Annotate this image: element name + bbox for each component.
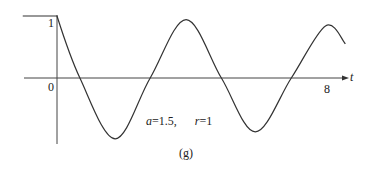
x-axis-label: t — [350, 71, 353, 83]
response-plot — [0, 0, 369, 169]
param-a-value: =1.5, — [152, 114, 177, 128]
y-tick-label-1: 1 — [48, 17, 54, 29]
t-axis-arrowhead-icon — [342, 76, 349, 81]
panel-label: (g) — [179, 147, 193, 159]
x-tick-label-8: 8 — [324, 83, 330, 95]
param-r-value: =1 — [199, 114, 212, 128]
parameter-annotation: a=1.5, r=1 — [146, 115, 212, 127]
x-tick-label-0: 0 — [48, 81, 54, 93]
